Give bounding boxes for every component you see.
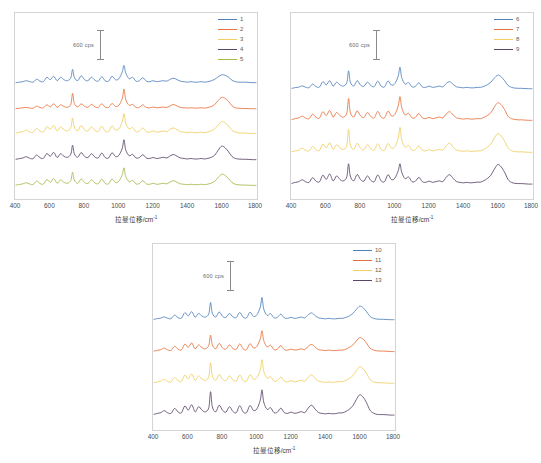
spectrum-trace-2 — [16, 89, 256, 109]
xtick-1800: 1800 — [524, 202, 538, 209]
panel-a-xaxis-title: 拉曼位移/cm-1 — [115, 214, 158, 224]
legend-item-10[interactable]: 10 — [353, 246, 382, 254]
spectrum-trace-12 — [154, 360, 394, 384]
legend-swatch-11 — [353, 260, 372, 261]
xtick-1200: 1200 — [422, 202, 436, 209]
panel-c-xaxis: 400 600 800 1000 1200 1400 1600 1800 拉曼位… — [152, 431, 396, 463]
legend-swatch-3 — [218, 39, 237, 40]
xtick-1000: 1000 — [387, 202, 401, 209]
panel-a-xaxis-exponent: -1 — [153, 215, 157, 220]
panel-b-xaxis: 400 600 800 1000 1200 1400 1600 1800 拉曼位… — [290, 200, 534, 232]
xtick-1400: 1400 — [456, 202, 470, 209]
legend-label-6: 6 — [516, 16, 519, 22]
xtick-1600: 1600 — [214, 202, 228, 209]
panel-c-xaxis-exponent: -1 — [291, 446, 295, 451]
legend-item-12[interactable]: 12 — [353, 266, 382, 274]
panel-c: 10 11 12 13 600 cps 400 600 800 1000 120… — [138, 231, 410, 463]
xtick-1600: 1600 — [490, 202, 504, 209]
legend-label-3: 3 — [240, 36, 243, 42]
spectrum-trace-11 — [154, 331, 394, 352]
panel-a-scalebar: 600 cps — [73, 30, 104, 60]
spectrum-trace-4 — [16, 140, 256, 160]
xtick-1000: 1000 — [249, 433, 263, 440]
xtick-600: 600 — [44, 202, 55, 209]
spectrum-trace-5 — [16, 168, 256, 186]
xtick-1400: 1400 — [318, 433, 332, 440]
spectrum-trace-8 — [292, 127, 532, 152]
spectrum-trace-13 — [154, 390, 394, 415]
legend-item-7[interactable]: 7 — [494, 25, 519, 33]
legend-item-8[interactable]: 8 — [494, 35, 519, 43]
legend-item-5[interactable]: 5 — [218, 55, 243, 63]
panel-c-xaxis-title-text: 拉曼位移/cm — [253, 447, 292, 454]
panel-a-xaxis: 400 600 800 1000 1200 1400 1600 1800 拉曼位… — [14, 200, 258, 232]
xtick-1000: 1000 — [111, 202, 125, 209]
legend-swatch-12 — [353, 270, 372, 271]
legend-label-12: 12 — [375, 267, 382, 273]
legend-swatch-2 — [218, 29, 237, 30]
legend-swatch-8 — [494, 39, 513, 40]
panel-c-scalebar: 600 cps — [203, 261, 234, 291]
panel-a-xaxis-title-text: 拉曼位移/cm — [115, 216, 154, 223]
xtick-400: 400 — [10, 202, 21, 209]
panel-c-legend: 10 11 12 13 — [353, 246, 382, 284]
legend-swatch-4 — [218, 49, 237, 50]
xtick-800: 800 — [355, 202, 366, 209]
legend-swatch-13 — [353, 280, 372, 281]
panel-b-legend: 6 7 8 9 — [494, 15, 519, 53]
legend-item-13[interactable]: 13 — [353, 276, 382, 284]
panel-a-legend: 1 2 3 4 5 — [218, 15, 243, 63]
panel-b-scalebar: 600 cps — [349, 30, 380, 60]
legend-label-4: 4 — [240, 46, 243, 52]
legend-swatch-1 — [218, 19, 237, 20]
legend-label-2: 2 — [240, 26, 243, 32]
panel-b-scalebar-glyph — [373, 30, 380, 60]
legend-label-13: 13 — [375, 277, 382, 283]
panel-b-xaxis-title: 拉曼位移/cm-1 — [391, 214, 434, 224]
panel-a-scalebar-glyph — [97, 30, 104, 60]
legend-swatch-9 — [494, 49, 513, 50]
xtick-1800: 1800 — [248, 202, 262, 209]
xtick-1200: 1200 — [284, 433, 298, 440]
legend-label-1: 1 — [240, 16, 243, 22]
spectrum-trace-7 — [292, 97, 532, 121]
panel-a-scalebar-label: 600 cps — [73, 42, 94, 48]
panel-c-scalebar-glyph — [227, 261, 234, 291]
legend-label-10: 10 — [375, 247, 382, 253]
panel-c-xaxis-title: 拉曼位移/cm-1 — [253, 445, 296, 455]
legend-label-8: 8 — [516, 36, 519, 42]
legend-item-6[interactable]: 6 — [494, 15, 519, 23]
legend-item-1[interactable]: 1 — [218, 15, 243, 23]
spectrum-trace-6 — [292, 67, 532, 89]
legend-item-11[interactable]: 11 — [353, 256, 382, 264]
xtick-800: 800 — [217, 433, 228, 440]
xtick-800: 800 — [79, 202, 90, 209]
legend-label-9: 9 — [516, 46, 519, 52]
panel-b-xaxis-title-text: 拉曼位移/cm — [391, 216, 430, 223]
xtick-400: 400 — [286, 202, 297, 209]
legend-item-2[interactable]: 2 — [218, 25, 243, 33]
xtick-600: 600 — [182, 433, 193, 440]
legend-label-11: 11 — [375, 257, 381, 263]
legend-swatch-10 — [353, 250, 372, 251]
xtick-1200: 1200 — [146, 202, 160, 209]
panel-b-xaxis-exponent: -1 — [429, 215, 433, 220]
xtick-600: 600 — [320, 202, 331, 209]
spectrum-trace-3 — [16, 114, 256, 134]
panel-b: 6 7 8 9 600 cps 400 600 800 1000 1200 14… — [285, 0, 541, 232]
xtick-400: 400 — [148, 433, 159, 440]
panel-c-scalebar-label: 600 cps — [203, 273, 224, 279]
spectrum-trace-9 — [292, 164, 532, 184]
panel-b-scalebar-label: 600 cps — [349, 42, 370, 48]
legend-swatch-7 — [494, 29, 513, 30]
xtick-1600: 1600 — [352, 433, 366, 440]
legend-swatch-6 — [494, 19, 513, 20]
xtick-1400: 1400 — [180, 202, 194, 209]
legend-item-4[interactable]: 4 — [218, 45, 243, 53]
legend-label-7: 7 — [516, 26, 519, 32]
legend-swatch-5 — [218, 59, 237, 60]
xtick-1800: 1800 — [386, 433, 400, 440]
legend-item-3[interactable]: 3 — [218, 35, 243, 43]
spectrum-trace-1 — [16, 65, 256, 82]
legend-item-9[interactable]: 9 — [494, 45, 519, 53]
